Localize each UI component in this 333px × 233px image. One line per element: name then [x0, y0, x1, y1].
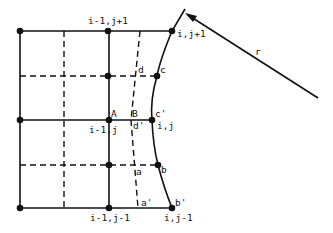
label-a: a — [136, 166, 142, 177]
label-bottom-center: i-1,j-1 — [90, 212, 130, 223]
node-dot — [17, 205, 24, 212]
label-bottom-right: i,j-1 — [164, 212, 193, 223]
label-top-right: i,j+1 — [177, 28, 206, 39]
label-b-prime: b' — [175, 197, 186, 208]
arrowhead-icon — [185, 13, 197, 22]
dashed-line-interpolated-lower — [131, 120, 138, 208]
node-dot — [105, 73, 112, 80]
label-mid-right: i,j — [157, 120, 174, 131]
node-dot — [17, 117, 24, 124]
node-dot — [17, 28, 24, 35]
label-a-prime: a' — [141, 197, 152, 208]
label-mid-center: i-1,j — [89, 124, 118, 135]
node-dot — [106, 205, 113, 212]
label-b: b — [161, 164, 167, 175]
label-c: c — [160, 64, 166, 75]
node-dot — [169, 28, 176, 35]
label-d-prime: d' — [133, 120, 144, 131]
grid-diagram: i-1,j+1 i,j+1 i-1,j i,j i-1,j-1 i,j-1 A … — [0, 0, 333, 233]
label-r: r — [255, 46, 261, 57]
vector-r-line — [188, 15, 318, 98]
label-d: d — [138, 64, 144, 75]
label-c-prime: c' — [155, 108, 166, 119]
label-top-center: i-1,j+1 — [88, 15, 128, 26]
label-A: A — [111, 108, 117, 119]
node-dot — [105, 28, 112, 35]
label-B: B — [132, 108, 138, 119]
node-dot — [106, 162, 113, 169]
